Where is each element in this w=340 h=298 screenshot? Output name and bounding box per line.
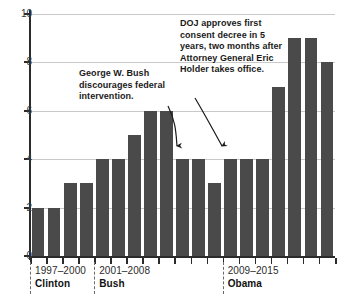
bar bbox=[208, 183, 221, 256]
era-separator bbox=[94, 262, 95, 294]
bar bbox=[48, 208, 61, 256]
annotation-doj: DOJ approves first consent decree in 5 y… bbox=[180, 18, 284, 76]
y-axis-tick-label: 10 bbox=[12, 9, 32, 19]
era-years-label: 2009–2015 bbox=[228, 264, 279, 277]
y-axis-tick-label: 8 bbox=[12, 57, 32, 67]
bar bbox=[32, 208, 45, 256]
bar bbox=[80, 183, 93, 256]
era-president-label: Obama bbox=[228, 277, 279, 290]
x-axis-tick bbox=[287, 258, 289, 264]
y-axis-tick-label: 0 bbox=[12, 251, 32, 261]
era-president-label: Bush bbox=[99, 277, 150, 290]
x-axis-tick bbox=[303, 258, 305, 264]
x-axis-tick bbox=[207, 258, 209, 264]
bar-chart: 1086420 1997–2000Clinton2001–2008Bush200… bbox=[0, 0, 340, 298]
bar bbox=[176, 159, 189, 256]
era-separator bbox=[223, 262, 224, 294]
bar bbox=[128, 135, 141, 256]
y-axis-tick-label: 2 bbox=[12, 203, 32, 213]
bar bbox=[272, 87, 285, 256]
era-separator bbox=[30, 262, 31, 294]
bar bbox=[288, 38, 301, 256]
x-axis-tick bbox=[335, 258, 337, 264]
x-axis-tick bbox=[158, 258, 160, 264]
y-axis-line bbox=[29, 10, 31, 260]
era-president-label: Clinton bbox=[35, 277, 86, 290]
bar bbox=[192, 159, 205, 256]
bar bbox=[224, 159, 237, 256]
x-axis-tick bbox=[174, 258, 176, 264]
bar bbox=[144, 111, 157, 256]
bar bbox=[112, 159, 125, 256]
y-axis-tick-label: 4 bbox=[12, 154, 32, 164]
bar bbox=[64, 183, 77, 256]
x-axis-tick bbox=[191, 258, 193, 264]
x-axis-line bbox=[29, 256, 335, 258]
x-axis-tick bbox=[319, 258, 321, 264]
bar bbox=[96, 159, 109, 256]
bar bbox=[256, 159, 269, 256]
annotation-bush: George W. Bush discourages federal inter… bbox=[79, 68, 177, 103]
bar bbox=[160, 111, 173, 256]
bar bbox=[240, 159, 253, 256]
era-label-group: 2009–2015Obama bbox=[228, 264, 279, 290]
era-label-group: 1997–2000Clinton bbox=[35, 264, 86, 290]
era-years-label: 2001–2008 bbox=[99, 264, 150, 277]
era-label-group: 2001–2008Bush bbox=[99, 264, 150, 290]
bar bbox=[321, 62, 334, 256]
bar bbox=[305, 38, 318, 256]
era-years-label: 1997–2000 bbox=[35, 264, 86, 277]
y-axis-tick-label: 6 bbox=[12, 106, 32, 116]
